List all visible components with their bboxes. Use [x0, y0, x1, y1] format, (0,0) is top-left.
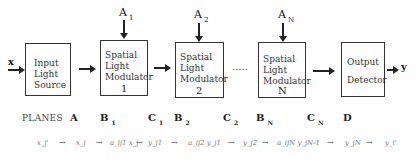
control-input-a1-label: A1	[119, 6, 133, 19]
block-number: 2	[196, 85, 202, 96]
control-input-a2-label: A2	[194, 8, 208, 21]
eq-arrow: →	[96, 138, 103, 147]
input-x-label: x	[8, 56, 14, 67]
plane-c1: C1	[148, 112, 163, 123]
block-label: Input Light Source	[34, 58, 66, 91]
arrow-source-to-slm1	[79, 68, 91, 70]
output-detector-block: Output Detector	[341, 42, 385, 97]
planes-title: PLANES	[22, 113, 63, 123]
eq-term: x_j'	[37, 139, 49, 147]
plane-b2: B2	[174, 112, 190, 123]
block-number: N	[278, 85, 287, 96]
plane-d: D	[343, 112, 352, 123]
output-arrow	[387, 69, 394, 71]
input-light-source-block: Input Light Source	[25, 43, 71, 96]
block-label: Spatial Light Modulator	[180, 52, 228, 85]
eq-arrow: →	[171, 138, 178, 147]
plane-b1: B1	[100, 112, 116, 123]
eq-arrow: →	[228, 138, 235, 147]
block-label-line: Detector	[347, 75, 387, 86]
block-label-line: Spatial	[263, 54, 311, 65]
eq-arrow: →	[366, 138, 373, 147]
eq-arrow: →	[327, 138, 334, 147]
plane-c2: C2	[223, 112, 238, 123]
eq-term: y_jN	[345, 139, 361, 147]
block-label-line: Input	[34, 58, 66, 69]
eq-arrow: →	[136, 138, 143, 147]
eq-term: y_i'	[385, 139, 397, 147]
input-arrow	[8, 69, 20, 71]
spatial-light-modulator-1-block: Spatial Light Modulator 1	[100, 40, 148, 96]
eq-term: y_j1	[148, 139, 162, 147]
block-label-line: Light	[180, 63, 228, 74]
block-label-line: Light	[34, 69, 66, 80]
spatial-light-modulator-2-block: Spatial Light Modulator 2	[175, 42, 224, 98]
plane-cn: CN	[307, 112, 323, 123]
spatial-light-modulator-n-block: Spatial Light Modulator N	[258, 42, 306, 98]
block-label: Spatial Light Modulator	[105, 50, 153, 83]
eq-term: a_ij2 y_j1	[188, 139, 221, 147]
eq-term: x_j	[76, 139, 86, 147]
eq-term: y_j2	[243, 139, 257, 147]
block-label-line: Light	[263, 65, 311, 76]
block-label-line: Source	[34, 80, 66, 91]
output-y-label: y	[401, 61, 407, 72]
ellipsis: .....	[232, 61, 248, 72]
block-label-line: Output	[347, 57, 387, 68]
block-label-line: Modulator	[180, 74, 228, 85]
plane-a: A	[70, 112, 78, 123]
control-input-an-label: AN	[278, 8, 294, 21]
block-number: 1	[121, 83, 127, 94]
arrow-slmn-to-detector	[313, 70, 330, 72]
block-label-line: Spatial	[180, 52, 228, 63]
control-arrow-an	[282, 23, 284, 37]
block-label: Spatial Light Modulator	[263, 54, 311, 87]
eq-term: a_ij1 x_j	[110, 139, 138, 147]
control-arrow-a1	[123, 20, 125, 34]
arrow-slm1-to-slm2	[154, 67, 166, 69]
eq-arrow: →	[59, 138, 66, 147]
block-label: Output Detector	[347, 57, 387, 86]
control-arrow-a2	[198, 23, 200, 37]
block-label-line: Modulator	[105, 72, 153, 83]
block-label-line: Spatial	[105, 50, 153, 61]
plane-bn: BN	[256, 112, 273, 123]
block-label-line: Light	[105, 61, 153, 72]
eq-term: a_ijN y_jN-1	[277, 139, 320, 147]
eq-arrow: →	[262, 138, 269, 147]
